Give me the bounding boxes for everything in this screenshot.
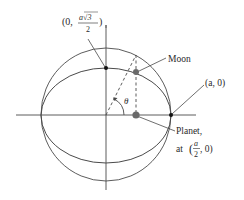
svg-text:a√3: a√3 xyxy=(79,13,91,22)
svg-text:): ) xyxy=(99,16,102,28)
svg-text:a: a xyxy=(194,139,198,148)
planet-leader xyxy=(137,116,175,131)
svg-text:(0,: (0, xyxy=(62,16,73,28)
planet-label: Planet, at ( a 2 , 0) xyxy=(176,126,213,159)
planet-dot xyxy=(132,111,139,118)
svg-text:at: at xyxy=(176,144,183,154)
right-point-leader xyxy=(172,85,204,114)
svg-text:(: ( xyxy=(189,142,193,156)
svg-text:, 0): , 0) xyxy=(200,144,213,155)
theta-label: θ xyxy=(124,96,129,106)
moon-leader xyxy=(137,58,166,72)
top-point-label: (0, a√3 2 ) xyxy=(62,12,102,34)
right-vertex-label: (a, 0) xyxy=(205,78,225,89)
top-point-dot xyxy=(104,66,108,70)
top-point-leader xyxy=(88,39,105,67)
moon-dot xyxy=(133,69,139,75)
svg-text:Planet,: Planet, xyxy=(176,126,202,136)
orbit-diagram: θ (0, a√3 2 ) Moon (a, 0) Planet, at ( a… xyxy=(0,0,244,200)
radius-dashed-line xyxy=(106,55,136,115)
svg-text:2: 2 xyxy=(194,150,198,159)
svg-text:2: 2 xyxy=(86,25,90,34)
moon-label: Moon xyxy=(168,54,191,64)
theta-arc xyxy=(114,99,124,115)
right-vertex-dot xyxy=(169,113,173,117)
